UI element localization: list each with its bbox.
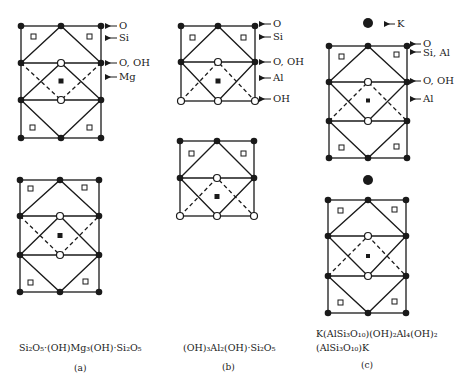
- label-a-o-oh: O, OH: [119, 57, 150, 69]
- label-a-silicon: Si: [119, 32, 129, 44]
- formula-c-line2: (AlSi₃O₁₀)K: [316, 341, 369, 354]
- octahedral-cation-squares: [58, 79, 371, 259]
- label-c-o-oh: O, OH: [423, 75, 454, 87]
- caption-a: (a): [74, 363, 86, 373]
- label-a-oxygen: O: [119, 20, 127, 32]
- tetrahedral-cation-squares: [28, 34, 399, 305]
- label-b-hydroxyl: OH: [273, 93, 290, 105]
- label-b-o-oh: O, OH: [273, 56, 304, 68]
- formula-b: (OH)₃Al₂(OH)·Si₂O₅: [183, 341, 275, 354]
- label-c-aluminum: Al: [423, 93, 433, 105]
- label-b-silicon: Si: [273, 31, 283, 43]
- label-c-silicon-aluminum: Si, Al: [423, 47, 450, 59]
- formula-a: Si₂O₅·(OH)Mg₃(OH)·Si₂O₅: [19, 341, 142, 354]
- formula-c-line1: K(AlSi₃O₁₀)(OH)₂Al₄(OH)₂: [316, 327, 437, 340]
- label-b-oxygen: O: [273, 18, 281, 30]
- caption-b: (b): [222, 362, 235, 372]
- hydroxyl-atoms: [57, 59, 372, 280]
- label-a-magnesium: Mg: [119, 71, 136, 83]
- caption-c: (c): [361, 360, 373, 370]
- label-c-potassium: K: [397, 18, 404, 30]
- label-b-aluminum: Al: [273, 72, 283, 84]
